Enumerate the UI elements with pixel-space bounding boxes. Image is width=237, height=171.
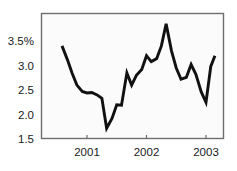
chart-container: 3.5%3.02.52.01.5 200120022003 <box>0 0 237 171</box>
x-tick-label: 2001 <box>74 146 100 158</box>
x-axis-tick-labels: 200120022003 <box>74 146 219 158</box>
x-tick-label: 2003 <box>193 146 219 158</box>
y-axis-tick-labels: 3.5%3.02.52.01.5 <box>8 35 34 145</box>
y-tick-label: 3.5% <box>8 35 34 47</box>
y-tick-label: 2.0 <box>18 109 34 121</box>
y-tick-label: 2.5 <box>18 84 34 96</box>
line-chart: 3.5%3.02.52.01.5 200120022003 <box>0 0 237 171</box>
x-tick-label: 2002 <box>134 146 160 158</box>
y-tick-label: 1.5 <box>18 133 34 145</box>
y-tick-label: 3.0 <box>18 60 34 72</box>
